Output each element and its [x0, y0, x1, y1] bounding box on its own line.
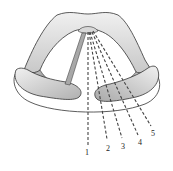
- epiglottis-arch: [24, 12, 150, 72]
- ray-label-2: 2: [106, 145, 110, 153]
- ray-label-4: 4: [138, 139, 142, 147]
- larynx-diagram: [0, 0, 173, 171]
- ray-label-3: 3: [121, 143, 125, 151]
- ray-label-1: 1: [85, 149, 89, 157]
- ray-label-5: 5: [151, 130, 155, 138]
